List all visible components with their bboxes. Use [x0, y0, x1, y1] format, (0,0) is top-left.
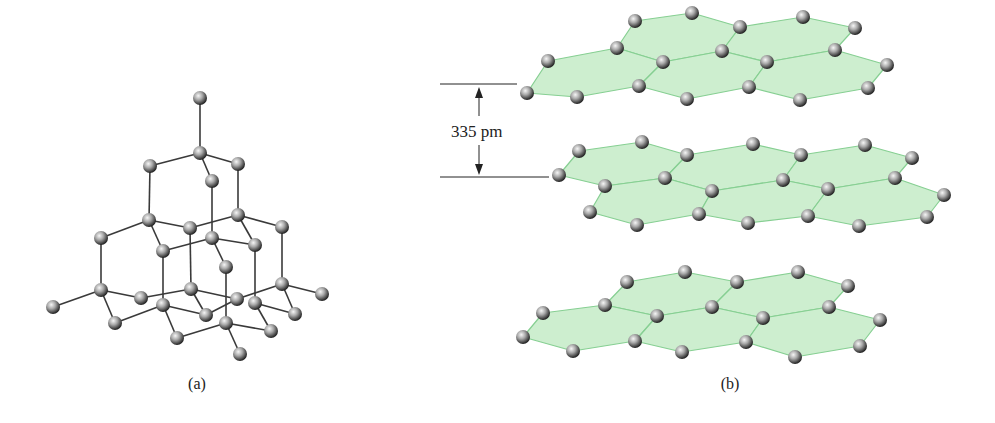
bond [190, 215, 238, 228]
carbon-atom [848, 21, 862, 35]
graphite-sheet-bottom [516, 265, 887, 364]
carbon-atom [570, 90, 584, 104]
bond [53, 290, 101, 307]
carbon-atom [248, 296, 262, 310]
carbon-atom [841, 279, 855, 293]
carbon-atom [658, 171, 672, 185]
carbon-atom [858, 138, 872, 152]
graphite-sheet-top [520, 6, 894, 107]
carbon-atom [828, 43, 842, 57]
graphite-sheet-middle [552, 135, 951, 233]
carbon-atom [741, 216, 755, 230]
carbon-atom [170, 331, 184, 345]
carbon-atom [793, 93, 807, 107]
carbon-atom [610, 41, 624, 55]
carbon-atom [142, 213, 156, 227]
carbon-atom [156, 244, 170, 258]
diamond-panel [46, 91, 329, 361]
carbon-atom [628, 334, 642, 348]
arrow-down-head-icon [475, 164, 483, 175]
carbon-atom [873, 313, 887, 327]
graphite-layers [516, 6, 951, 364]
carbon-atom [184, 282, 198, 296]
carbon-atom [231, 208, 245, 222]
carbon-atom [853, 339, 867, 353]
bond [115, 305, 163, 323]
carbon-atom [572, 144, 586, 158]
carbon-atom [794, 148, 808, 162]
carbon-atom [134, 291, 148, 305]
carbon-atom [788, 350, 802, 364]
carbon-atom [199, 308, 213, 322]
carbon-atom [635, 135, 649, 149]
carbon-atom [230, 292, 244, 306]
carbon-atom [108, 316, 122, 330]
bond [237, 284, 282, 299]
carbon-atom [632, 79, 646, 93]
carbon-atom [231, 157, 245, 171]
carbon-atom [566, 344, 580, 358]
carbon-atom [678, 265, 692, 279]
carbon-atom [796, 10, 810, 24]
carbon-atom [680, 92, 694, 106]
diamond-atoms [46, 91, 329, 361]
carbon-atom [675, 345, 689, 359]
carbon-atom [516, 330, 530, 344]
carbon-atom [536, 306, 550, 320]
bond [141, 289, 191, 298]
bond [190, 228, 191, 289]
graphite-panel: 335 pm [440, 6, 951, 364]
carbon-atom [852, 219, 866, 233]
carbon-atom [739, 335, 753, 349]
carbon-atom [776, 173, 790, 187]
carbon-atom [630, 218, 644, 232]
carbon-atom [541, 54, 555, 68]
carbon-atom [219, 260, 233, 274]
carbon-atom [156, 298, 170, 312]
carbon-atom [205, 174, 219, 188]
carbon-atom [94, 231, 108, 245]
carbon-atom [685, 6, 699, 20]
bond [191, 289, 237, 299]
carbon-atom [705, 184, 719, 198]
carbon-atom [183, 221, 197, 235]
carbon-atom [715, 44, 729, 58]
carbon-atom [760, 55, 774, 69]
carbon-atom [143, 159, 157, 173]
figure-canvas: 335 pm (a) (b) [0, 0, 995, 423]
carbon-atom [746, 137, 760, 151]
carbon-atom [193, 91, 207, 105]
carbon-atom [193, 146, 207, 160]
carbon-atom [756, 311, 770, 325]
carbon-atom [628, 14, 642, 28]
bond [150, 153, 200, 166]
carbon-atom [821, 182, 835, 196]
carbon-atom [248, 238, 262, 252]
carbon-atom [205, 231, 219, 245]
carbon-atom [680, 148, 694, 162]
carbon-atom [888, 171, 902, 185]
bond [149, 166, 150, 220]
bond [163, 238, 212, 251]
caption-b: (b) [721, 375, 740, 393]
carbon-atom [620, 275, 634, 289]
carbon-atom [791, 265, 805, 279]
carbon-atom [46, 300, 60, 314]
carbon-atom [583, 205, 597, 219]
carbon-atom [733, 20, 747, 34]
spacing-label: 335 pm [451, 122, 502, 141]
carbon-atom [288, 307, 302, 321]
bond [177, 323, 226, 338]
carbon-atom [275, 220, 289, 234]
carbon-atom [920, 210, 934, 224]
carbon-atom [264, 324, 278, 338]
caption-a: (a) [188, 375, 206, 393]
carbon-atom [598, 179, 612, 193]
carbon-atom [315, 287, 329, 301]
carbon-atom [801, 209, 815, 223]
arrow-up-head-icon [475, 87, 483, 98]
carbon-atom [861, 81, 875, 95]
carbon-atom [905, 151, 919, 165]
carbon-atom [275, 277, 289, 291]
layer-spacing-annotation: 335 pm [440, 84, 549, 177]
